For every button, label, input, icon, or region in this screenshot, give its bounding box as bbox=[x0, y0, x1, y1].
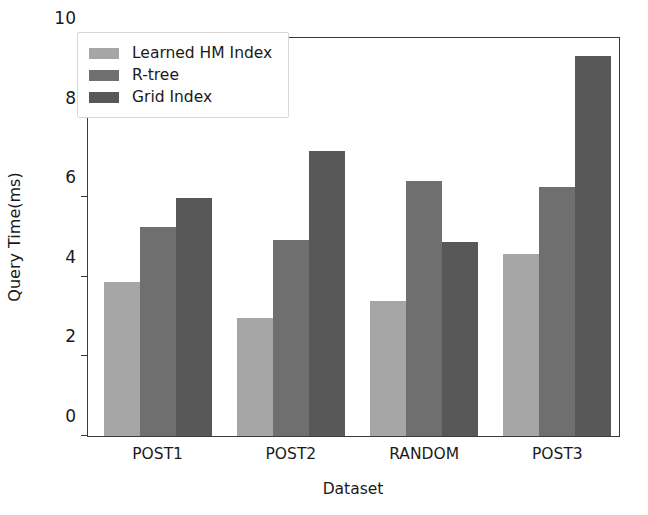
bar bbox=[309, 151, 345, 436]
legend-item: Grid Index bbox=[89, 86, 272, 108]
y-axis-tick-label: 10 bbox=[54, 8, 76, 28]
x-axis-tick-label: POST1 bbox=[132, 445, 183, 463]
bar bbox=[370, 301, 406, 436]
y-axis-label: Query Time(ms) bbox=[5, 172, 24, 301]
bar-chart-figure: Query Time(ms) 0246810 POST1POST2RANDOMP… bbox=[0, 0, 648, 515]
y-axis-tick-label: 6 bbox=[65, 167, 76, 187]
bar bbox=[273, 240, 309, 436]
bar bbox=[442, 242, 478, 436]
bar bbox=[539, 187, 575, 436]
y-axis-tick-mark bbox=[81, 355, 88, 356]
legend-item-label: Grid Index bbox=[132, 88, 212, 106]
legend-item: R-tree bbox=[89, 64, 272, 86]
y-axis-tick-mark bbox=[81, 196, 88, 197]
legend-item: Learned HM Index bbox=[89, 42, 272, 64]
x-axis-tick-label: POST2 bbox=[266, 445, 317, 463]
bar bbox=[575, 56, 611, 436]
legend-item-label: R-tree bbox=[132, 66, 179, 84]
chart-legend: Learned HM IndexR-treeGrid Index bbox=[77, 32, 289, 118]
bar bbox=[237, 318, 273, 436]
y-axis-tick-mark bbox=[81, 435, 88, 436]
bar bbox=[140, 227, 176, 436]
legend-item-label: Learned HM Index bbox=[132, 44, 272, 62]
legend-swatch-icon bbox=[89, 70, 119, 81]
y-axis-tick-label: 8 bbox=[65, 88, 76, 108]
y-axis-tick-mark bbox=[81, 276, 88, 277]
bar bbox=[104, 282, 140, 436]
x-axis-tick-label: RANDOM bbox=[389, 445, 459, 463]
x-axis-tick-label: POST3 bbox=[532, 445, 583, 463]
legend-swatch-icon bbox=[89, 48, 119, 59]
y-axis-tick-label: 2 bbox=[65, 326, 76, 346]
bar bbox=[503, 254, 539, 436]
bar bbox=[406, 181, 442, 436]
x-axis-label: Dataset bbox=[323, 480, 384, 498]
y-axis-tick-label: 0 bbox=[65, 406, 76, 426]
bar bbox=[176, 198, 212, 436]
legend-swatch-icon bbox=[89, 92, 119, 103]
y-axis-tick-label: 4 bbox=[65, 247, 76, 267]
